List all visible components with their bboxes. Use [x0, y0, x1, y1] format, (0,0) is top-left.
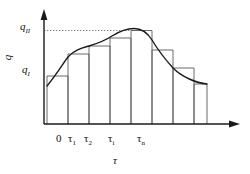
x-tick-0-base: 0: [56, 132, 62, 144]
y-axis-arrow-icon: [41, 9, 48, 20]
y-label-q-I: qI: [22, 64, 30, 78]
y-label-q-II: qII: [20, 21, 30, 35]
bar-5-peak: [131, 31, 152, 125]
bar-3: [89, 46, 110, 124]
y-label-q-I-sub: I: [28, 70, 30, 77]
x-tick-label-tau-2: τ2: [84, 133, 92, 147]
bar-4: [110, 38, 131, 124]
bar-8: [194, 84, 207, 124]
plot-canvas: [0, 0, 250, 174]
x-tick-tau2-sub: 2: [88, 139, 92, 147]
x-tick-taui-sub: i: [112, 139, 114, 147]
x-tick-taun-sub: n: [141, 139, 145, 147]
bar-6: [152, 50, 173, 124]
figure-container: qII qI q 0 τ1 τ2 τi τn τ: [0, 0, 250, 174]
y-axis-title: q: [2, 55, 13, 61]
x-tick-label-0: 0: [56, 133, 62, 144]
bar-2: [68, 54, 89, 124]
x-axis-arrow-icon: [229, 121, 240, 128]
x-axis-title: τ: [113, 155, 117, 166]
bar-group: [47, 31, 207, 125]
y-label-q-II-sub: II: [26, 27, 31, 34]
x-tick-label-tau-1: τ1: [68, 133, 76, 147]
x-tick-tau1-sub: 1: [72, 139, 76, 147]
smooth-curve: [47, 29, 207, 87]
x-tick-label-tau-i: τi: [108, 133, 114, 147]
x-tick-label-tau-n: τn: [137, 133, 145, 147]
